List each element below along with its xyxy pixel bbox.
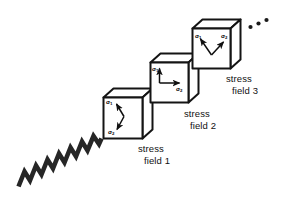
caption-line-2: field 3 <box>226 85 258 97</box>
caption-stress-field-2: stress field 2 <box>184 108 216 131</box>
caption-line-2: field 1 <box>138 155 170 167</box>
sigma-2-label-block-3: σ2 <box>221 33 228 40</box>
sigma-2-label-block-2: σ2 <box>176 86 183 93</box>
sigma-1-label-block-1: σ1 <box>106 99 113 106</box>
caption-line-1: stress <box>138 143 164 154</box>
caption-stress-field-1: stress field 1 <box>138 143 170 166</box>
sigma-1-label-block-3: σ1 <box>195 33 202 40</box>
caption-line-1: stress <box>226 73 252 84</box>
diagram-canvas <box>0 0 286 211</box>
stress-block-2 <box>151 54 199 103</box>
ellipsis-icon <box>248 18 268 29</box>
caption-stress-field-3: stress field 3 <box>226 73 258 96</box>
sigma-1-label-block-2: σ1 <box>152 66 159 73</box>
caption-line-2: field 2 <box>184 120 216 132</box>
caption-line-1: stress <box>184 108 210 119</box>
seismic-wave-icon <box>19 136 102 187</box>
sigma-2-label-block-1: σ2 <box>108 129 115 136</box>
stress-field-diagram: σ1 σ2 σ1 σ2 σ1 σ2 stress field 1 stress … <box>0 0 286 211</box>
stress-block-3 <box>193 20 241 69</box>
